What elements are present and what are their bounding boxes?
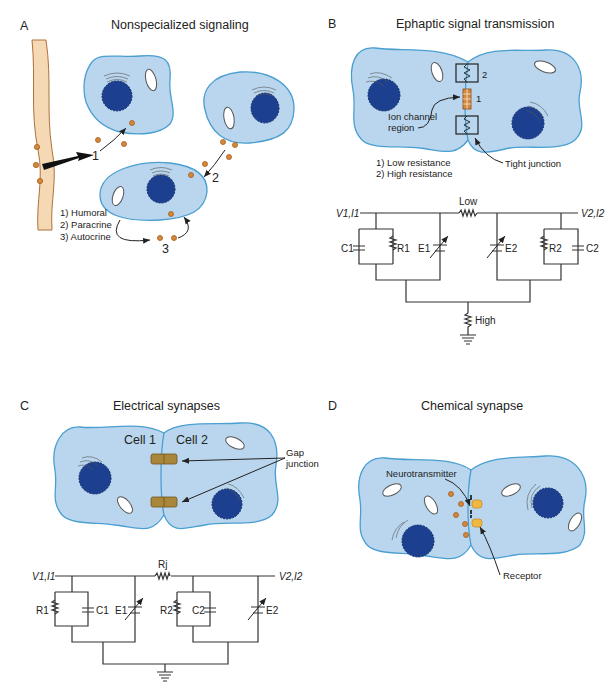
- signal-molecule-icon: [158, 236, 163, 241]
- cell2-label: Cell 2: [176, 433, 208, 447]
- signal-molecule-icon: [169, 212, 174, 217]
- marker-2: 2: [482, 69, 487, 80]
- receptor-label: Receptor: [503, 570, 542, 581]
- marker-3: 3: [162, 242, 169, 256]
- legend-high-resistance: 2) High resistance: [376, 168, 453, 179]
- signal-molecule-icon: [122, 142, 127, 147]
- nucleus-icon: [368, 79, 400, 111]
- signal-molecule-icon: [189, 173, 194, 178]
- blood-vessel: [32, 40, 54, 230]
- nucleus-icon: [402, 525, 434, 557]
- terminal-right: V2,I2: [581, 208, 605, 219]
- neurotransmitter-icon: [464, 533, 469, 538]
- label-e1: E1: [418, 243, 431, 254]
- legend-autocrine: 3) Autocrine: [60, 231, 111, 242]
- label-e2: E2: [505, 243, 518, 254]
- signal-molecule-icon: [96, 138, 101, 143]
- gap-junction-label-2: junction: [285, 458, 319, 469]
- tight-junction-label: Tight junction: [505, 158, 561, 169]
- nucleus-icon: [251, 93, 279, 123]
- legend-humoral: 1) Humoral: [60, 207, 107, 218]
- label-r1: R1: [397, 243, 410, 254]
- neurotransmitter-icon: [454, 513, 459, 518]
- cell-right: [204, 72, 294, 143]
- ion-channel-label-2: region: [388, 122, 414, 133]
- nucleus-icon: [147, 175, 175, 203]
- label-c1: C1: [341, 243, 354, 254]
- cell-d-post: [468, 456, 586, 559]
- neurotransmitter-icon: [449, 492, 454, 497]
- variable-emf-icon: [430, 236, 448, 258]
- neurotransmitter-label: Neurotransmitter: [386, 468, 457, 479]
- ground-icon: [460, 335, 476, 344]
- signal-molecule-icon: [34, 144, 39, 149]
- neurotransmitter-icon: [463, 522, 468, 527]
- autocrine-arrow-out: [116, 220, 150, 241]
- coupling-resistor-label: Rj: [158, 559, 167, 570]
- label-c1: C1: [96, 605, 109, 616]
- label-r1: R1: [36, 605, 49, 616]
- nucleus-icon: [79, 462, 111, 494]
- coupling-resistor-rj: [155, 573, 170, 579]
- signal-molecule-icon: [233, 143, 238, 148]
- signal-molecule-icon: [130, 121, 135, 126]
- humoral-arrow-to-cell: [100, 128, 126, 151]
- signal-molecule-icon: [221, 140, 226, 145]
- panel-c: C Electrical synapses Cell 1 Cell 2 Gap …: [20, 399, 319, 681]
- signal-molecule-icon: [203, 162, 208, 167]
- panel-d: D Chemical synapse Neurotransmitter Rece…: [328, 399, 586, 581]
- panel-a-title: Nonspecialized signaling: [111, 18, 249, 32]
- panel-a: A Nonspecialized signaling 1 2: [20, 18, 294, 256]
- coupling-resistor-low: [459, 210, 477, 216]
- label-e1: E1: [115, 605, 128, 616]
- panel-c-title: Electrical synapses: [113, 399, 220, 413]
- signal-molecule-icon: [172, 236, 177, 241]
- label-r2: R2: [549, 243, 562, 254]
- nucleus-icon: [212, 489, 242, 519]
- terminal-left: V1,I1: [336, 208, 359, 219]
- receptor-icon: [472, 500, 482, 508]
- signal-molecule-icon: [37, 178, 42, 183]
- nucleus-icon: [102, 81, 132, 111]
- variable-emf-icon: [487, 236, 505, 258]
- marker-1: 1: [476, 93, 481, 104]
- legend-low-resistance: 1) Low resistance: [376, 157, 450, 168]
- panel-b: B Ephaptic signal transmission 2 1 Ion c…: [328, 17, 605, 344]
- marker-2: 2: [212, 171, 219, 185]
- signal-molecule-icon: [227, 155, 232, 160]
- panel-b-title: Ephaptic signal transmission: [396, 17, 554, 31]
- circuit-c: Rj V1,I1 V2,I2 R1 C1 E1 R2 C2 E2: [32, 559, 303, 681]
- gap-junction-label: Gap: [286, 447, 304, 458]
- autocrine-arrow-in: [178, 217, 188, 238]
- panel-d-title: Chemical synapse: [421, 399, 523, 413]
- ground-resistor-label: High: [475, 315, 496, 326]
- variable-emf-icon: [248, 598, 266, 620]
- nucleus-icon: [533, 488, 563, 518]
- gap-junction-icon: [151, 497, 177, 507]
- circuit-b: Low V1,I1 V2,I2 C1 R1 E1 E2 R2 C2 High: [336, 196, 605, 344]
- label-c2: C2: [192, 605, 205, 616]
- neurotransmitter-icon: [459, 502, 464, 507]
- panel-b-letter: B: [328, 17, 336, 31]
- terminal-right: V2,I2: [279, 571, 303, 582]
- figure-canvas: A Nonspecialized signaling 1 2: [0, 0, 614, 693]
- label-r2: R2: [160, 605, 173, 616]
- label-e2: E2: [266, 605, 279, 616]
- gap-junction-icon: [151, 454, 177, 464]
- label-c2: C2: [586, 243, 599, 254]
- panel-c-letter: C: [20, 399, 29, 413]
- variable-emf-icon: [125, 598, 143, 620]
- ground-icon: [157, 672, 173, 681]
- marker-1: 1: [92, 149, 99, 163]
- terminal-left: V1,I1: [32, 571, 55, 582]
- panel-a-letter: A: [20, 19, 29, 33]
- panel-d-letter: D: [328, 399, 337, 413]
- receptor-icon: [472, 519, 482, 527]
- signal-molecule-icon: [33, 162, 38, 167]
- legend-paracrine: 2) Paracrine: [60, 219, 112, 230]
- cell1-label: Cell 1: [124, 433, 156, 447]
- coupling-resistor-label: Low: [459, 196, 478, 207]
